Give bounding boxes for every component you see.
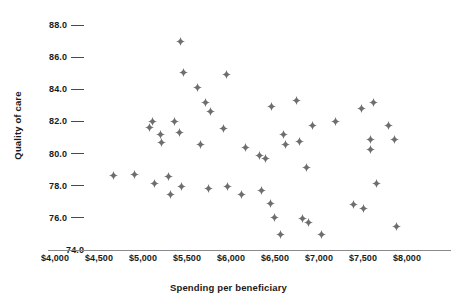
data-point	[266, 199, 275, 208]
data-point	[308, 121, 317, 130]
data-point	[302, 163, 311, 172]
data-point	[304, 218, 313, 227]
data-point	[148, 117, 157, 126]
data-point	[384, 121, 393, 130]
data-point	[219, 124, 228, 133]
data-point	[366, 145, 375, 154]
data-point	[222, 70, 231, 79]
data-point	[372, 179, 381, 188]
y-axis-tick: 76.0	[26, 212, 84, 224]
data-point	[170, 117, 179, 126]
y-axis-tick-mark	[71, 185, 84, 186]
data-point	[241, 143, 250, 152]
data-point	[223, 182, 232, 191]
data-point	[276, 230, 285, 239]
data-point	[204, 184, 213, 193]
data-point	[166, 190, 175, 199]
data-point	[177, 182, 186, 191]
data-point	[150, 179, 159, 188]
y-axis-tick-label: 80.0	[49, 149, 67, 159]
y-axis-tick-label: 76.0	[49, 213, 67, 223]
data-point	[366, 135, 375, 144]
data-point	[281, 140, 290, 149]
data-point	[156, 130, 165, 139]
data-point	[175, 128, 184, 137]
y-axis-tick-mark	[71, 153, 84, 154]
data-point	[298, 214, 307, 223]
y-axis-tick-label: 78.0	[49, 181, 67, 191]
y-axis-tick-mark	[71, 217, 84, 218]
data-point	[279, 130, 288, 139]
data-point	[157, 138, 166, 147]
x-axis-line	[48, 250, 451, 251]
data-point	[317, 230, 326, 239]
y-axis-tick-label: 84.0	[49, 84, 67, 94]
data-point	[392, 222, 401, 231]
data-point	[359, 204, 368, 213]
data-point	[176, 37, 185, 46]
data-point	[292, 96, 301, 105]
data-point	[237, 190, 246, 199]
y-axis-tick: 82.0	[26, 115, 84, 127]
y-axis-title-label: Quality of care	[12, 91, 23, 159]
y-axis-title: Quality of care	[8, 0, 26, 250]
data-point	[201, 98, 210, 107]
data-point	[130, 170, 139, 179]
y-axis-tick-label: 82.0	[49, 116, 67, 126]
data-point	[179, 68, 188, 77]
data-point	[261, 154, 270, 163]
y-axis-tick-mark	[71, 25, 84, 26]
data-point	[196, 140, 205, 149]
data-point	[206, 107, 215, 116]
y-axis-tick: 78.0	[26, 180, 84, 192]
data-point	[164, 172, 173, 181]
data-point	[257, 186, 266, 195]
data-point	[193, 83, 202, 92]
data-point	[295, 137, 304, 146]
y-axis-tick: 80.0	[26, 148, 84, 160]
data-point	[145, 123, 154, 132]
y-axis-tick: 84.0	[26, 83, 84, 95]
x-axis-title: Spending per beneficiary	[0, 282, 457, 293]
data-point	[255, 151, 264, 160]
data-point	[109, 171, 118, 180]
y-axis-tick: 88.0	[26, 19, 84, 31]
data-point	[390, 135, 399, 144]
y-axis-tick-mark	[71, 89, 84, 90]
y-axis-tick: 86.0	[26, 51, 84, 63]
y-axis-tick-label: 86.0	[49, 52, 67, 62]
data-point	[270, 213, 279, 222]
scatter-chart: Quality of care 74.076.078.080.082.084.0…	[0, 0, 457, 308]
data-point	[331, 117, 340, 126]
data-point	[369, 98, 378, 107]
y-axis-tick-mark	[71, 57, 84, 58]
data-point	[357, 104, 366, 113]
x-axis-tick-label: $8,000	[372, 253, 442, 263]
data-point	[267, 102, 276, 111]
y-axis-tick-label: 88.0	[49, 20, 67, 30]
data-point	[349, 200, 358, 209]
y-axis-tick-mark	[71, 121, 84, 122]
